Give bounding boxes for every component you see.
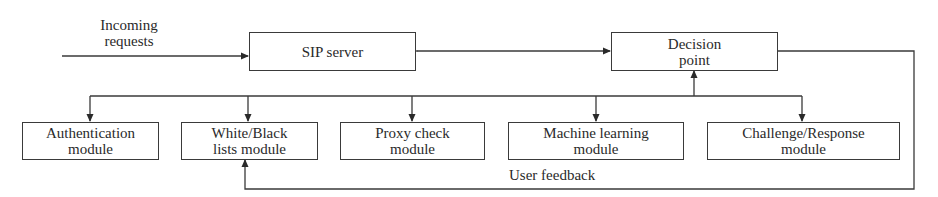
user-feedback-label: User feedback [509, 167, 629, 183]
decision-point-node: Decision point [611, 32, 778, 71]
sip-server-node: SIP server [249, 32, 416, 71]
white-black-lists-module: White/Black lists module [181, 122, 318, 160]
machine-learning-module: Machine learning module [508, 122, 684, 160]
proxy-check-module: Proxy check module [340, 122, 485, 160]
incoming-requests-label: Incoming requests [84, 17, 174, 49]
challenge-response-module: Challenge/Response module [707, 122, 900, 160]
authentication-module: Authentication module [22, 122, 159, 160]
